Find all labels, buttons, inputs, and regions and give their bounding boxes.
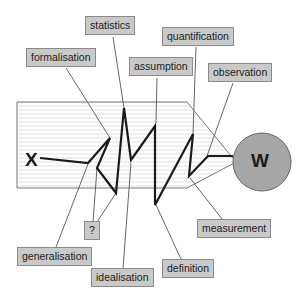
label-measurement: measurement [197, 219, 271, 238]
label-formalisation: formalisation [26, 48, 96, 67]
label-definition: definition [162, 259, 214, 278]
process-arrow-shape [17, 102, 236, 188]
label-observation: observation [208, 63, 272, 82]
label-question: ? [84, 221, 100, 240]
label-idealisation: idealisation [91, 268, 154, 287]
label-generalisation: generalisation [17, 247, 92, 266]
end-node-w: W [251, 150, 269, 172]
label-assumption: assumption [129, 57, 193, 76]
start-node-x: X [25, 149, 38, 171]
label-quantification: quantification [162, 27, 234, 46]
label-statistics: statistics [85, 16, 135, 35]
